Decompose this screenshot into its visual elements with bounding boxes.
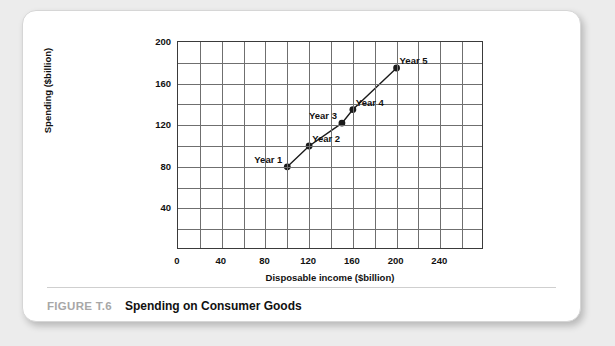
grid-line-vertical <box>397 42 398 248</box>
grid-line-horizontal <box>178 63 482 64</box>
data-point-label: Year 1 <box>244 154 282 165</box>
figure-number: FIGURE T.6 <box>47 300 112 312</box>
grid-line-vertical <box>287 42 288 248</box>
grid-line-vertical <box>353 42 354 248</box>
grid-line-horizontal <box>178 167 482 168</box>
x-tick-label: 120 <box>300 255 316 266</box>
grid-line-vertical <box>244 42 245 248</box>
y-tick-label: 80 <box>145 160 171 171</box>
x-tick-label: 80 <box>259 255 270 266</box>
data-point-label: Year 4 <box>356 97 384 108</box>
plot-area <box>177 41 483 249</box>
grid-line-horizontal <box>178 84 482 85</box>
y-tick-label: 160 <box>145 77 171 88</box>
grid-line-vertical <box>222 42 223 248</box>
figure-title: Spending on Consumer Goods <box>125 299 302 313</box>
figure-card: Spending ($billion) 04080120160200240 40… <box>22 10 581 322</box>
grid-line-horizontal <box>178 125 482 126</box>
grid-line-vertical <box>440 42 441 248</box>
y-tick-label: 40 <box>145 202 171 213</box>
grid-line-vertical <box>265 42 266 248</box>
x-tick-label: 200 <box>388 255 404 266</box>
caption-divider <box>47 287 556 288</box>
x-axis-title: Disposable income ($billion) <box>177 272 483 283</box>
grid-line-horizontal <box>178 208 482 209</box>
x-tick-label: 0 <box>174 255 179 266</box>
x-tick-label: 40 <box>215 255 226 266</box>
data-point-label: Year 3 <box>299 110 337 121</box>
grid-line-horizontal <box>178 188 482 189</box>
grid-line-vertical <box>418 42 419 248</box>
figure-page: Spending ($billion) 04080120160200240 40… <box>0 0 615 346</box>
y-tick-label: 200 <box>145 36 171 47</box>
grid-line-vertical <box>331 42 332 248</box>
chart-canvas: Spending ($billion) 04080120160200240 40… <box>23 11 580 286</box>
grid-line-vertical <box>462 42 463 248</box>
grid-line-vertical <box>375 42 376 248</box>
grid-line-vertical <box>200 42 201 248</box>
y-axis-title: Spending ($billion) <box>42 31 53 151</box>
grid-line-horizontal <box>178 104 482 105</box>
grid-line-vertical <box>309 42 310 248</box>
grid-line-horizontal <box>178 229 482 230</box>
grid-line-horizontal <box>178 146 482 147</box>
data-point-label: Year 2 <box>312 133 340 144</box>
figure-caption: FIGURE T.6 Spending on Consumer Goods <box>47 299 302 313</box>
data-point-label: Year 5 <box>400 55 428 66</box>
x-tick-label: 160 <box>344 255 360 266</box>
x-tick-label: 240 <box>431 255 447 266</box>
y-tick-label: 120 <box>145 119 171 130</box>
